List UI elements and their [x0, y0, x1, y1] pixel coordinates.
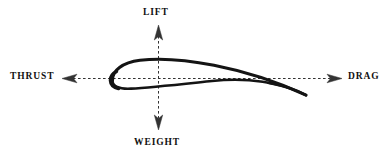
airfoil-force-diagram	[0, 0, 384, 157]
airfoil-trailing-edge	[268, 83, 306, 95]
weight-label: WEIGHT	[134, 138, 180, 148]
lift-label: LIFT	[143, 8, 169, 18]
thrust-label: THRUST	[10, 72, 54, 82]
airfoil-shape	[110, 59, 306, 95]
drag-label: DRAG	[348, 72, 380, 82]
vertical-axis-group	[154, 25, 162, 130]
airfoil-upper-surface	[112, 59, 306, 95]
force-diagram-canvas: LIFT WEIGHT THRUST DRAG	[0, 0, 384, 157]
